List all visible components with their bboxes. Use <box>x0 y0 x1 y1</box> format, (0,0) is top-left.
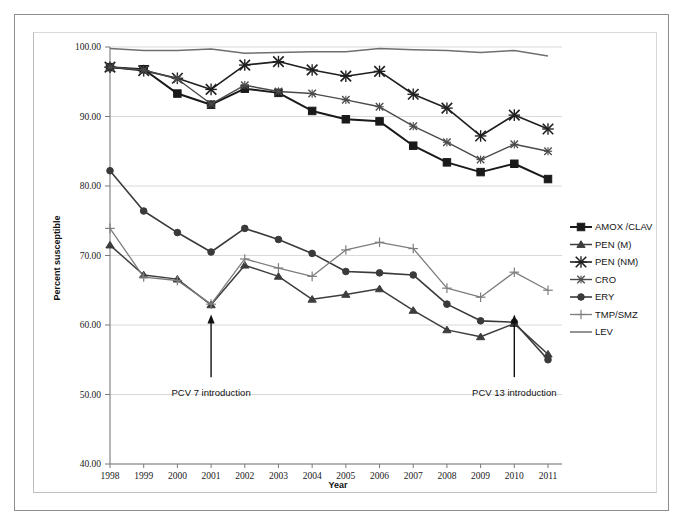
legend-marker <box>577 223 584 230</box>
data-point <box>511 160 518 167</box>
legend-item-tmp-smz[interactable]: TMP/SMZ <box>570 309 638 320</box>
data-point <box>441 102 453 114</box>
data-point <box>443 138 451 146</box>
series-ery <box>107 167 552 363</box>
legend-item-amox-clav[interactable]: AMOX /CLAV <box>570 221 653 232</box>
data-point <box>409 307 417 314</box>
y-tick-label: 90.00 <box>80 112 102 122</box>
data-point <box>309 250 316 257</box>
data-point <box>273 56 285 68</box>
legend-item-ery[interactable]: ERY <box>570 291 615 302</box>
data-point <box>545 356 552 363</box>
data-point <box>375 285 383 292</box>
x-tick-label: 2001 <box>202 471 221 481</box>
data-point <box>173 276 183 286</box>
data-point <box>375 103 383 111</box>
data-point <box>207 100 215 108</box>
series-line <box>110 171 548 360</box>
series-amox-clav <box>106 63 551 182</box>
x-tick-label: 2000 <box>168 471 187 481</box>
data-point <box>274 263 284 273</box>
series-line <box>110 62 548 136</box>
legend-marker <box>578 294 585 301</box>
data-point <box>275 236 282 243</box>
data-point <box>308 89 316 97</box>
annotation-arrow-head <box>207 315 214 324</box>
x-tick-label: 2011 <box>539 471 558 481</box>
x-axis-title: Year <box>328 480 348 490</box>
x-tick-label: 2006 <box>370 471 389 481</box>
data-point <box>443 326 451 333</box>
legend-item-cro[interactable]: CRO <box>570 274 616 285</box>
legend-label: CRO <box>595 274 616 285</box>
y-tick-label: 40.00 <box>80 459 102 469</box>
data-point <box>475 130 487 142</box>
data-point <box>375 237 385 247</box>
series-line <box>110 228 548 304</box>
data-point <box>106 63 114 71</box>
legend-item-lev[interactable]: LEV <box>570 326 614 337</box>
data-point <box>274 87 282 95</box>
data-point <box>343 268 350 275</box>
data-point <box>476 292 486 302</box>
series-line <box>110 67 548 179</box>
data-point <box>444 301 451 308</box>
data-point <box>544 147 552 155</box>
data-point <box>510 140 518 148</box>
data-point <box>106 241 114 248</box>
series-group <box>104 48 554 363</box>
data-point <box>544 175 551 182</box>
legend-label: LEV <box>595 326 614 337</box>
y-tick-label: 100.00 <box>75 42 101 52</box>
data-point <box>306 64 318 76</box>
x-tick-label: 2002 <box>235 471 254 481</box>
series-pen-m <box>106 241 552 357</box>
data-point <box>173 75 181 83</box>
legend-label: PEN (NM) <box>595 256 638 267</box>
x-tick-label: 2007 <box>404 471 423 481</box>
legend-item-pen-nm[interactable]: PEN (NM) <box>570 256 638 268</box>
y-axis-title: Percent susceptible <box>52 215 62 300</box>
data-point <box>409 122 417 130</box>
data-point <box>374 66 386 78</box>
x-tick-label: 1999 <box>134 471 153 481</box>
data-point <box>239 59 251 71</box>
series-line <box>110 48 548 56</box>
data-point <box>407 88 419 100</box>
data-point <box>443 159 450 166</box>
legend: AMOX /CLAVPEN (M)PEN (NM)CROERYTMP/SMZLE… <box>570 221 653 337</box>
data-point <box>510 267 520 277</box>
data-point <box>477 318 484 325</box>
figure-page: 40.0050.0060.0070.0080.0090.00100.00 199… <box>0 0 685 526</box>
annotation-1: PCV 7 introduction <box>171 315 250 399</box>
x-tick-label: 1998 <box>101 471 120 481</box>
data-point <box>477 168 484 175</box>
x-tick-label: 2003 <box>269 471 288 481</box>
x-tick-label: 2009 <box>471 471 490 481</box>
x-tick-label: 2010 <box>505 471 524 481</box>
x-tick-labels-group: 1998199920002001200220032004200520062007… <box>101 464 558 481</box>
annotation-label: PCV 7 introduction <box>171 387 250 398</box>
data-point <box>174 229 181 236</box>
y-tick-label: 60.00 <box>80 320 102 330</box>
data-point <box>139 272 149 282</box>
line-chart: 40.0050.0060.0070.0080.0090.00100.00 199… <box>0 0 685 526</box>
x-tick-label: 2004 <box>303 471 322 481</box>
legend-label: PEN (M) <box>595 239 631 250</box>
data-point <box>140 66 148 74</box>
data-point <box>509 109 521 121</box>
legend-marker <box>575 256 587 268</box>
data-point <box>308 107 315 114</box>
data-point <box>140 208 147 215</box>
series-pen-nm <box>104 56 554 142</box>
legend-marker <box>577 275 585 283</box>
data-point <box>241 225 248 232</box>
data-point <box>342 96 350 104</box>
data-point <box>241 81 249 89</box>
legend-item-pen-m[interactable]: PEN (M) <box>570 239 631 250</box>
data-point <box>410 272 417 279</box>
legend-label: AMOX /CLAV <box>595 221 653 232</box>
y-tick-label: 50.00 <box>80 390 102 400</box>
data-point <box>208 249 215 256</box>
legend-label: TMP/SMZ <box>595 309 638 320</box>
